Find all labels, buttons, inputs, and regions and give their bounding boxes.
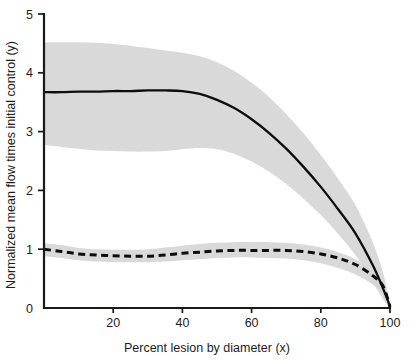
y-tick-label-0: 0 bbox=[26, 302, 33, 316]
x-tick-label-20: 20 bbox=[106, 316, 120, 330]
line-chart: 20406080100 012345 Percent lesion by dia… bbox=[0, 0, 414, 361]
y-axis-title: Normalized mean flow times initial contr… bbox=[4, 41, 18, 289]
x-tick-label-40: 40 bbox=[175, 316, 189, 330]
x-tick-label-100: 100 bbox=[380, 316, 401, 330]
x-axis-title: Percent lesion by diameter (x) bbox=[124, 341, 290, 355]
confidence-bands bbox=[44, 42, 390, 308]
y-tick-label-4: 4 bbox=[26, 66, 33, 80]
y-tick-label-2: 2 bbox=[26, 184, 33, 198]
chart-figure: 20406080100 012345 Percent lesion by dia… bbox=[0, 0, 414, 361]
y-axis-tick-labels: 012345 bbox=[26, 8, 33, 316]
x-axis-tick-labels: 20406080100 bbox=[106, 316, 400, 330]
y-tick-label-5: 5 bbox=[26, 8, 33, 22]
x-tick-label-80: 80 bbox=[314, 316, 328, 330]
y-tick-label-1: 1 bbox=[26, 243, 33, 257]
y-tick-label-3: 3 bbox=[26, 125, 33, 139]
confidence-band-hyperemic bbox=[44, 42, 390, 308]
x-tick-label-60: 60 bbox=[245, 316, 259, 330]
